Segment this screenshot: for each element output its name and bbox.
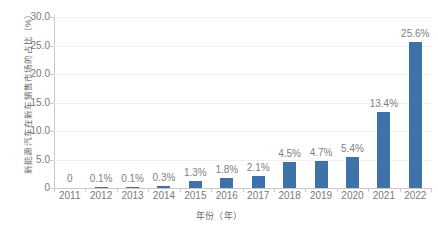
gridline [54,17,431,18]
x-axis-tick-mark [211,188,212,192]
y-axis-tick-mark [50,46,54,47]
y-axis-tick-label: 0 [10,183,50,193]
y-axis-tick-mark [50,103,54,104]
x-axis-tick-mark [337,188,338,192]
x-axis-tick-mark [305,188,306,192]
x-axis-tick-mark [243,188,244,192]
x-axis-tick-mark [148,188,149,192]
y-axis-tick-mark [50,74,54,75]
gridline [54,160,431,161]
y-axis-tick-mark [50,160,54,161]
x-axis-tick-mark [117,188,118,192]
bar [220,178,233,188]
bar [283,162,296,188]
x-axis-tick-mark [431,188,432,192]
x-axis-tick-mark [54,188,55,192]
x-axis-tick-mark [274,188,275,192]
y-axis-tick-label: 5.0 [10,155,50,165]
bar-value-label: 5.4% [330,144,374,154]
bar [126,187,139,188]
gridline [54,74,431,75]
x-axis-tick-mark [85,188,86,192]
bar [346,157,359,188]
x-axis-tick-label: 2022 [395,191,435,201]
bar [315,161,328,188]
x-axis-tick-mark [180,188,181,192]
bar-value-label: 25.6% [393,29,437,39]
y-axis-tick-label: 20.0 [10,69,50,79]
bar [377,112,390,188]
plot-area: 00.1%0.1%0.3%1.3%1.8%2.1%4.5%4.7%5.4%13.… [54,17,431,188]
bar-value-label: 13.4% [362,99,406,109]
x-axis-tick-mark [400,188,401,192]
y-axis-tick-mark [50,131,54,132]
y-axis-tick-label: 15.0 [10,98,50,108]
y-axis-tick-label: 30.0 [10,12,50,22]
bar [409,42,422,188]
gridline [54,46,431,47]
bar [95,187,108,188]
bar [189,181,202,188]
chart-container: 新能源汽车在新车销售市场的占比（%） 05.010.015.020.025.03… [0,0,438,231]
y-axis-tick-labels: 05.010.015.020.025.030.0 [8,0,50,231]
bar [252,176,265,188]
bar-value-label: 2.1% [236,163,280,173]
y-axis-tick-label: 25.0 [10,41,50,51]
y-axis-tick-mark [50,17,54,18]
x-axis-tick-mark [368,188,369,192]
y-axis-tick-label: 10.0 [10,126,50,136]
x-axis-title: 年份（年） [0,209,438,222]
bar [157,186,170,188]
gridline [54,131,431,132]
x-axis-tick-labels: 2011201220132014201520162017201820192020… [54,191,431,209]
